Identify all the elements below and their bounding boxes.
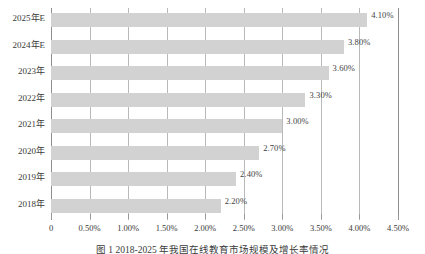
x-tick-mark <box>282 214 283 219</box>
x-tick-mark <box>359 214 360 219</box>
bar-row: 4.10% <box>51 8 398 35</box>
x-tick-mark <box>128 214 129 219</box>
bar-2023年[interactable] <box>51 66 329 80</box>
bar-rows: 4.10%3.80%3.60%3.30%3.00%2.70%2.40%2.20% <box>51 8 398 220</box>
plot-area: 4.10%3.80%3.60%3.30%3.00%2.70%2.40%2.20% <box>51 8 398 220</box>
bar-chart: 2025年E2024年E2023年2022年2021年2020年2019年201… <box>0 0 425 254</box>
bar-value-label: 2.20% <box>225 196 247 206</box>
category-label-2020年: 2020年 <box>18 146 45 156</box>
bar-value-label: 2.70% <box>263 143 285 153</box>
x-tick-label: 4.00% <box>348 223 370 233</box>
bar-2021年[interactable] <box>51 119 282 133</box>
bar-value-label: 3.00% <box>286 116 308 126</box>
bar-2022年[interactable] <box>51 93 305 107</box>
x-tick-mark <box>205 214 206 219</box>
category-label-2018年: 2018年 <box>18 199 45 209</box>
x-tick-mark <box>398 214 399 219</box>
category-label-2019年: 2019年 <box>18 172 45 182</box>
gridline-4.50 <box>398 8 399 220</box>
x-tick-label: 2.00% <box>194 223 216 233</box>
bar-row: 3.80% <box>51 35 398 62</box>
x-tick-mark <box>51 214 52 219</box>
x-tick-label: 4.50% <box>387 223 409 233</box>
x-axis: 00.50%1.00%1.50%2.00%2.50%3.00%3.50%4.00… <box>51 220 398 236</box>
bar-2018年[interactable] <box>51 199 221 213</box>
bar-row: 3.00% <box>51 114 398 141</box>
bar-2020年[interactable] <box>51 146 259 160</box>
bar-value-label: 3.30% <box>309 90 331 100</box>
x-tick-label: 1.00% <box>117 223 139 233</box>
category-label-2024年E: 2024年E <box>13 40 46 50</box>
category-label-2022年: 2022年 <box>18 93 45 103</box>
bar-2024年E[interactable] <box>51 40 344 54</box>
x-tick-mark <box>244 214 245 219</box>
bar-2019年[interactable] <box>51 172 236 186</box>
bar-value-label: 4.10% <box>371 10 393 20</box>
x-tick-label: 3.00% <box>271 223 293 233</box>
bar-value-label: 2.40% <box>240 169 262 179</box>
bar-row: 3.60% <box>51 61 398 88</box>
bar-row: 2.20% <box>51 194 398 221</box>
x-tick-label: 1.50% <box>156 223 178 233</box>
x-tick-mark <box>321 214 322 219</box>
bar-value-label: 3.80% <box>348 37 370 47</box>
bar-2025年E[interactable] <box>51 13 367 27</box>
bar-value-label: 3.60% <box>333 63 355 73</box>
x-tick-mark <box>167 214 168 219</box>
figure-caption: 图 1 2018-2025 年我国在线教育市场规模及增长率情况 <box>0 245 425 254</box>
category-label-2025年E: 2025年E <box>13 13 46 23</box>
bar-row: 3.30% <box>51 88 398 115</box>
y-axis-category-labels: 2025年E2024年E2023年2022年2021年2020年2019年201… <box>0 8 47 220</box>
bar-row: 2.40% <box>51 167 398 194</box>
x-tick-label: 3.50% <box>310 223 332 233</box>
category-label-2021年: 2021年 <box>18 119 45 129</box>
category-label-2023年: 2023年 <box>18 66 45 76</box>
bar-row: 2.70% <box>51 141 398 168</box>
x-tick-label: 0 <box>49 223 53 233</box>
x-tick-mark <box>90 214 91 219</box>
x-tick-label: 0.50% <box>79 223 101 233</box>
x-tick-label: 2.50% <box>233 223 255 233</box>
